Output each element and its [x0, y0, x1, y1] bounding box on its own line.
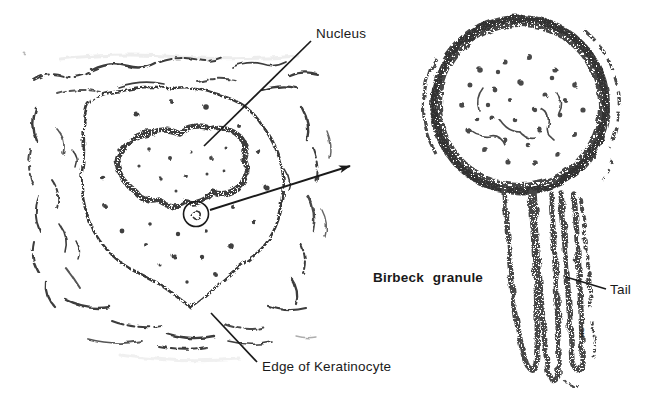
tail-leader-line [566, 277, 606, 289]
nucleus-chromatin-specks [137, 147, 227, 193]
illustration-svg: Nucleus Edge of Keratinocyte Birbeck gra… [0, 0, 646, 407]
granule-tail-strands [505, 190, 596, 387]
annotations: Nucleus Edge of Keratinocyte Birbeck gra… [204, 26, 631, 374]
pm-marker-label: PM [579, 328, 585, 337]
tail-annotation: Tail [566, 277, 631, 297]
cytoplasm-specks [100, 99, 269, 284]
nucleus-shape [117, 127, 246, 206]
tail-label: Tail [610, 282, 631, 297]
keratinocyte-leader-line [211, 313, 257, 362]
cell-micrograph-panel [23, 52, 350, 361]
edge-of-keratinocyte-label: Edge of Keratinocyte [262, 359, 391, 374]
cell-membrane [82, 87, 284, 308]
nucleus-label: Nucleus [316, 26, 366, 41]
figure-canvas: Nucleus Edge of Keratinocyte Birbeck gra… [0, 0, 646, 407]
magnification-arrow [210, 166, 350, 210]
granule-head-texture [460, 56, 585, 165]
granule-squiggle [190, 211, 201, 219]
birbeck-granule-panel [423, 19, 619, 387]
birbeck-granule-label: Birbeck granule [373, 270, 483, 285]
